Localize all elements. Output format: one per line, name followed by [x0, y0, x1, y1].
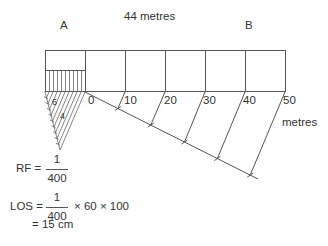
tick-label: 50: [283, 95, 296, 107]
projection-line: [184, 92, 205, 142]
subdivision-parallel: [47, 92, 50, 98]
rf-denominator: 400: [47, 172, 66, 184]
fraction-bar: [46, 207, 68, 208]
rf-label: RF =: [16, 163, 41, 175]
rf-numerator: 1: [54, 153, 60, 165]
point-b-label: B: [245, 20, 253, 32]
projection-line: [151, 92, 165, 125]
fraction-bar: [46, 169, 68, 170]
point-a-label: A: [60, 20, 68, 32]
small-division-label: 6: [52, 98, 57, 107]
projection-line: [217, 92, 245, 159]
tick-label: 40: [243, 95, 256, 107]
rf-fraction: 1 400: [46, 154, 68, 184]
los-multiplier: × 60 × 100: [74, 201, 129, 213]
length-label: 44 metres: [124, 11, 175, 23]
los-label: LOS =: [10, 201, 43, 213]
tick-label: 20: [164, 95, 177, 107]
los-result: = 15 cm: [32, 219, 73, 231]
tick-label: 10: [124, 95, 137, 107]
tick-label: 30: [203, 95, 216, 107]
tick-label: 0: [88, 95, 94, 107]
small-division-label: 4: [60, 112, 65, 121]
los-numerator: 1: [54, 191, 60, 203]
subdivision-closing-line: [60, 92, 85, 150]
unit-label: metres: [282, 117, 317, 129]
